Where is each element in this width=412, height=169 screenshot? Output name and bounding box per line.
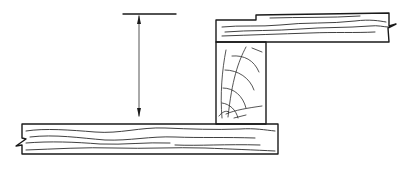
wood-step-diagram xyxy=(0,0,412,169)
end-grain-block xyxy=(216,42,266,124)
arrow-up-icon xyxy=(137,15,141,24)
diagram-canvas xyxy=(0,0,412,169)
dimension-arrow xyxy=(137,15,141,117)
arrow-down-icon xyxy=(137,108,141,117)
lower-board xyxy=(16,124,278,154)
upper-board xyxy=(216,13,396,42)
